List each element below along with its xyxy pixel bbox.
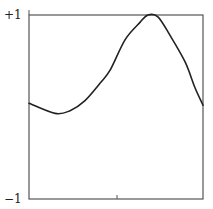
line-chart bbox=[0, 0, 213, 209]
y-axis-bottom-label: −1 bbox=[4, 193, 22, 205]
data-line bbox=[29, 14, 203, 114]
plot-frame bbox=[29, 15, 203, 199]
y-axis-top-label: +1 bbox=[4, 9, 22, 21]
